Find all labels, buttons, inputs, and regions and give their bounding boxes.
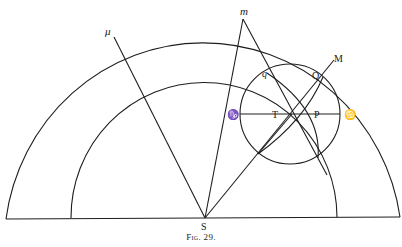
label-q: q (262, 68, 267, 79)
baseline (6, 217, 400, 219)
line-S-mu (114, 37, 205, 218)
label-m: m (240, 5, 248, 17)
label-P: P (314, 109, 320, 120)
diagram-figure: μ m M Q q ♑ T P ♋ S (0, 0, 402, 247)
label-cancer: ♋ (344, 108, 356, 121)
label-Q: Q (312, 70, 320, 81)
line-lower-T (258, 114, 292, 154)
label-mu: μ (104, 25, 111, 37)
inner-arc (71, 82, 337, 218)
label-T: T (272, 109, 278, 120)
outer-arc (6, 43, 400, 219)
label-capricorn: ♑ (227, 108, 239, 121)
label-S: S (201, 221, 207, 232)
line-m-T (243, 19, 327, 175)
label-M: M (334, 53, 343, 64)
figure-caption: Fig. 29. (0, 232, 402, 242)
